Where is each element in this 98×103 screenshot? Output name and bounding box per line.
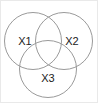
venn-diagram-figure: X1 X2 X3 [0,0,98,103]
venn-label-x2: X2 [65,35,78,47]
venn-label-x3: X3 [41,72,54,84]
venn-label-x1: X1 [18,35,31,47]
venn-diagram-canvas: X1 X2 X3 [0,0,98,103]
